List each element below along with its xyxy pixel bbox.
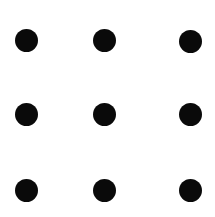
dot-r0-c1 <box>93 29 116 52</box>
dot-r0-c0 <box>15 29 38 52</box>
dot-r2-c2 <box>179 179 202 202</box>
dot-r1-c2 <box>179 103 202 126</box>
dot-r1-c1 <box>93 103 116 126</box>
dot-r0-c2 <box>179 30 202 53</box>
dot-r2-c1 <box>93 179 116 202</box>
dot-r2-c0 <box>15 179 38 202</box>
dot-grid-canvas <box>0 0 215 217</box>
dot-r1-c0 <box>15 103 38 126</box>
